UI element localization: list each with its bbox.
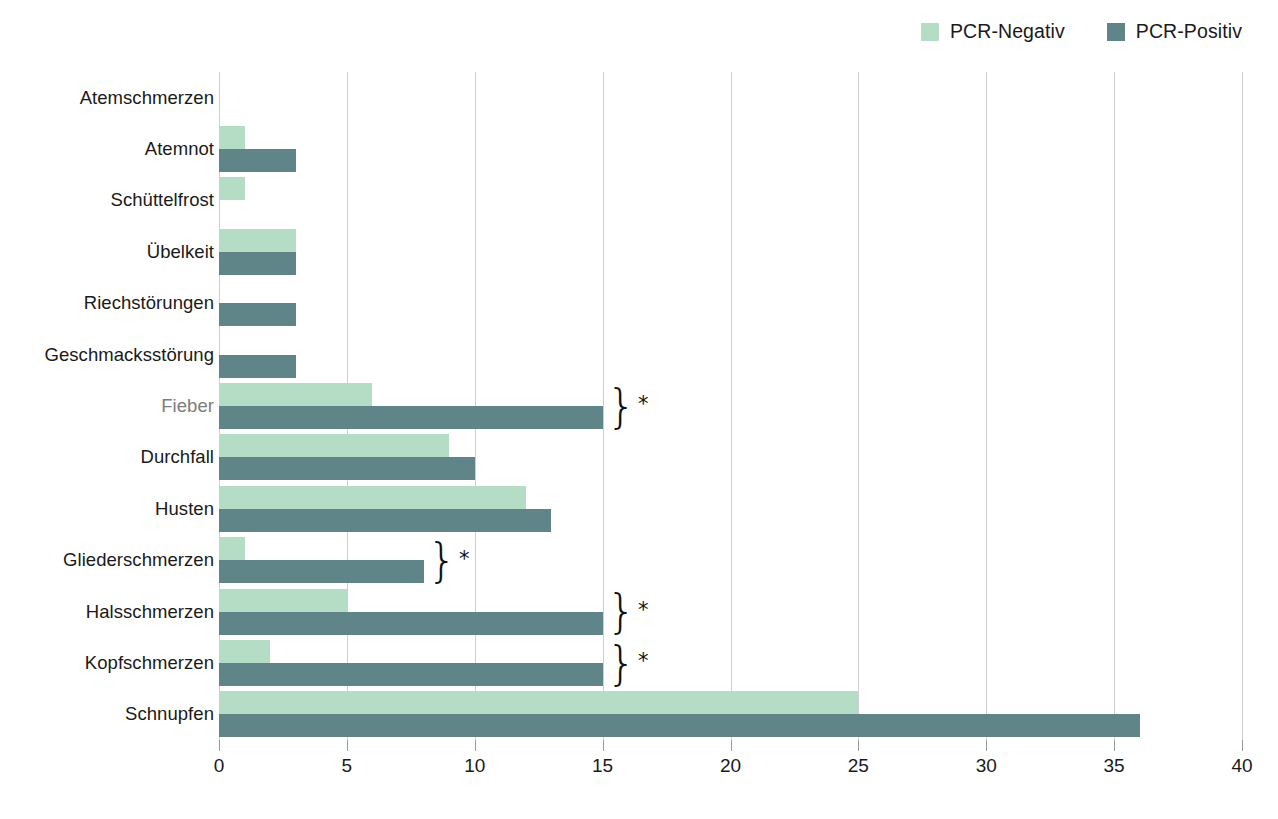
category-label: Schüttelfrost (111, 189, 214, 211)
bar-pair (219, 434, 1242, 480)
bar-pcr-positiv[interactable] (219, 560, 424, 583)
chart-legend: PCR-Negativ PCR-Positiv (921, 20, 1242, 43)
category-label: Atemschmerzen (80, 87, 214, 109)
bar-pcr-negativ[interactable] (219, 177, 245, 200)
bar-pair (219, 589, 1242, 635)
x-tick-mark (1242, 740, 1243, 751)
bar-pair (219, 486, 1242, 532)
category-label: Kopfschmerzen (85, 652, 214, 674)
x-tick-mark (347, 740, 348, 751)
x-tick-label: 25 (848, 755, 869, 777)
x-tick-label: 5 (342, 755, 353, 777)
bar-pcr-positiv[interactable] (219, 355, 296, 378)
legend-label-pcr-negativ: PCR-Negativ (950, 20, 1065, 43)
x-tick-mark (475, 740, 476, 751)
bar-pcr-positiv[interactable] (219, 612, 603, 635)
x-tick-label: 40 (1231, 755, 1252, 777)
bar-row: Husten (0, 483, 1278, 534)
bracket-icon: } (607, 388, 636, 425)
legend-swatch-pcr-positiv (1107, 23, 1125, 41)
bar-row: Halsschmerzen}* (0, 586, 1278, 637)
x-tick-label: 15 (592, 755, 613, 777)
bar-pair (219, 126, 1242, 172)
legend-item-pcr-positiv[interactable]: PCR-Positiv (1107, 20, 1242, 43)
x-tick-mark (219, 740, 220, 751)
significance-annotation: }* (607, 379, 649, 433)
bar-pair (219, 640, 1242, 686)
legend-item-pcr-negativ[interactable]: PCR-Negativ (921, 20, 1065, 43)
bar-pcr-positiv[interactable] (219, 714, 1140, 737)
bar-pcr-positiv[interactable] (219, 457, 475, 480)
bar-pcr-positiv[interactable] (219, 252, 296, 275)
x-tick-mark (1114, 740, 1115, 751)
bar-row: Geschmacksstörung (0, 329, 1278, 380)
bar-pair (219, 383, 1242, 429)
bar-rows: AtemschmerzenAtemnotSchüttelfrostÜbelkei… (0, 72, 1278, 740)
category-label: Halsschmerzen (86, 601, 214, 623)
bar-pcr-negativ[interactable] (219, 537, 245, 560)
bracket-icon: } (428, 542, 457, 579)
bar-pcr-positiv[interactable] (219, 303, 296, 326)
bar-row: Kopfschmerzen}* (0, 637, 1278, 688)
x-tick-label: 20 (720, 755, 741, 777)
bar-row: Schnupfen (0, 689, 1278, 740)
bar-row: Gliederschmerzen}* (0, 534, 1278, 585)
x-axis: 0510152025303540 (0, 755, 1278, 795)
category-label: Schnupfen (125, 703, 214, 725)
x-tick-mark (986, 740, 987, 751)
category-label: Gliederschmerzen (63, 549, 214, 571)
bar-pcr-positiv[interactable] (219, 406, 603, 429)
bar-pair (219, 332, 1242, 378)
bar-pcr-negativ[interactable] (219, 383, 372, 406)
bar-pcr-negativ[interactable] (219, 434, 449, 457)
significance-star: * (638, 600, 649, 621)
bar-row: Übelkeit (0, 226, 1278, 277)
category-label: Husten (155, 498, 214, 520)
significance-annotation: }* (607, 585, 649, 639)
bar-row: Atemnot (0, 123, 1278, 174)
category-label: Fieber (161, 395, 214, 417)
significance-annotation: }* (607, 636, 649, 690)
bar-pcr-positiv[interactable] (219, 149, 296, 172)
bar-row: Riechstörungen (0, 278, 1278, 329)
category-label: Geschmacksstörung (45, 344, 214, 366)
bracket-icon: } (607, 593, 636, 630)
category-label: Übelkeit (147, 241, 214, 263)
legend-swatch-pcr-negativ (921, 23, 939, 41)
bar-pcr-negativ[interactable] (219, 691, 858, 714)
significance-star: * (459, 549, 470, 570)
bar-pcr-negativ[interactable] (219, 486, 526, 509)
x-tick-label: 10 (464, 755, 485, 777)
bar-row: Durchfall (0, 432, 1278, 483)
bar-pair (219, 691, 1242, 737)
bar-pair (219, 229, 1242, 275)
bar-pair (219, 537, 1242, 583)
bar-row: Schüttelfrost (0, 175, 1278, 226)
x-tick-mark (731, 740, 732, 751)
significance-annotation: }* (428, 533, 470, 587)
bar-pcr-negativ[interactable] (219, 229, 296, 252)
x-tick-mark (603, 740, 604, 751)
legend-label-pcr-positiv: PCR-Positiv (1136, 20, 1242, 43)
bar-pcr-positiv[interactable] (219, 509, 551, 532)
bar-pair (219, 177, 1242, 223)
significance-star: * (638, 651, 649, 672)
bar-pcr-positiv[interactable] (219, 663, 603, 686)
x-tick-label: 0 (214, 755, 225, 777)
bar-chart: PCR-Negativ PCR-Positiv AtemschmerzenAte… (0, 0, 1278, 819)
x-tick-label: 30 (976, 755, 997, 777)
bar-pair (219, 280, 1242, 326)
significance-star: * (638, 394, 649, 415)
category-label: Durchfall (141, 446, 214, 468)
category-label: Atemnot (145, 138, 214, 160)
bar-pcr-negativ[interactable] (219, 640, 270, 663)
category-label: Riechstörungen (84, 292, 214, 314)
x-tick-mark (858, 740, 859, 751)
x-tick-label: 35 (1104, 755, 1125, 777)
bar-row: Fieber}* (0, 380, 1278, 431)
bracket-icon: } (607, 645, 636, 682)
bar-pair (219, 75, 1242, 121)
bar-row: Atemschmerzen (0, 72, 1278, 123)
bar-pcr-negativ[interactable] (219, 589, 347, 612)
bar-pcr-negativ[interactable] (219, 126, 245, 149)
